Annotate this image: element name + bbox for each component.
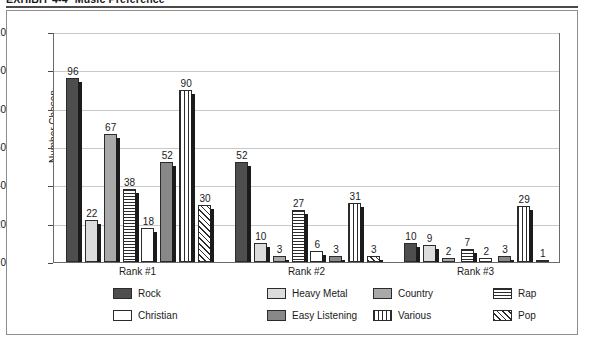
bar-value-label: 2	[446, 247, 452, 257]
bar-shadow	[172, 166, 176, 262]
bar-value-label: 18	[143, 217, 154, 227]
bar: 52	[160, 162, 173, 262]
bar-value-label: 38	[124, 178, 135, 188]
plot-area: 96226738185290305210327633131092723291	[53, 33, 560, 263]
bar-value-label: 96	[67, 67, 78, 77]
bar: 67	[104, 134, 117, 262]
bar: 52	[235, 162, 248, 262]
bar-value-label: 52	[162, 151, 173, 161]
bar-value-label: 1	[540, 249, 546, 259]
legend-swatch-icon	[113, 288, 132, 299]
bar-value-label: 90	[181, 79, 192, 89]
bar-shadow	[529, 210, 533, 262]
legend-label: Christian	[138, 311, 177, 321]
exhibit-title: EXHIBIT 4-4Music Preference	[6, 0, 165, 5]
bar: 96	[66, 78, 79, 262]
legend-label: Pop	[518, 311, 536, 321]
legend-item[interactable]: Rock	[113, 288, 161, 299]
bar: 1	[536, 260, 549, 262]
bar-shadow	[435, 249, 439, 262]
chart-legend: RockHeavy MetalCountryRapChristianEasy L…	[53, 282, 560, 328]
legend-item[interactable]: Heavy Metal	[267, 288, 348, 299]
bar: 9	[423, 245, 436, 262]
y-axis-tick-mark	[48, 186, 53, 187]
bar-value-label: 3	[333, 245, 339, 255]
bar-shadow	[153, 232, 157, 263]
plot-wrapper: Number Chosen 96226738185290305210327633…	[53, 33, 560, 263]
legend-swatch-icon	[493, 310, 512, 321]
y-axis-tick-mark	[48, 148, 53, 149]
bar-shadow	[116, 138, 120, 262]
bar: 2	[479, 258, 492, 262]
bar-shadow	[510, 260, 514, 262]
y-axis-tick-label: 120	[0, 27, 6, 38]
bar-value-label: 7	[465, 238, 471, 248]
y-axis-tick-mark	[48, 263, 53, 264]
bar-shadow	[135, 193, 139, 262]
bar-value-label: 29	[519, 195, 530, 205]
bar-value-label: 10	[405, 232, 416, 242]
gridline	[54, 110, 559, 111]
legend-swatch-icon	[267, 288, 286, 299]
bar: 3	[498, 256, 511, 262]
legend-label: Country	[398, 289, 433, 299]
bar-value-label: 3	[371, 245, 377, 255]
legend-item[interactable]: Easy Listening	[267, 310, 357, 321]
gridline	[54, 71, 559, 72]
bar: 6	[310, 251, 323, 263]
legend-label: Heavy Metal	[292, 289, 348, 299]
bar-shadow	[416, 247, 420, 262]
bar-value-label: 2	[483, 247, 489, 257]
bar-value-label: 3	[277, 245, 283, 255]
bar: 27	[292, 210, 305, 262]
y-axis-tick-mark	[48, 110, 53, 111]
bar: 22	[85, 220, 98, 262]
bar: 31	[348, 203, 361, 262]
bar-shadow	[210, 209, 214, 263]
x-axis-group-label: Rank #2	[288, 266, 325, 277]
y-axis-tick-label: 40	[0, 180, 6, 191]
y-axis-tick-mark	[48, 33, 53, 34]
bar: 29	[517, 206, 530, 262]
bar-value-label: 52	[236, 151, 247, 161]
bar-value-label: 3	[502, 245, 508, 255]
bar-shadow	[78, 82, 82, 262]
legend-label: Rock	[138, 289, 161, 299]
bar-shadow	[360, 207, 364, 262]
x-axis-group-label: Rank #3	[457, 266, 494, 277]
y-axis-tick-label: 80	[0, 104, 6, 115]
y-axis-tick-label: 60	[0, 142, 6, 153]
y-axis-tick-label: 0	[0, 257, 6, 268]
exhibit-page: EXHIBIT 4-4Music Preference Number Chose…	[0, 0, 591, 341]
title-divider	[6, 6, 578, 8]
y-axis-tick-label: 100	[0, 65, 6, 76]
legend-item[interactable]: Country	[373, 288, 433, 299]
bar-shadow	[304, 214, 308, 262]
bar: 3	[273, 256, 286, 262]
bar-value-label: 30	[199, 194, 210, 204]
bar-value-label: 10	[255, 232, 266, 242]
exhibit-number: EXHIBIT 4-4	[6, 0, 68, 5]
legend-item[interactable]: Various	[373, 310, 431, 321]
legend-swatch-icon	[373, 310, 392, 321]
bar: 3	[329, 256, 342, 262]
bar-value-label: 31	[350, 192, 361, 202]
bar: 3	[367, 256, 380, 262]
legend-item[interactable]: Pop	[493, 310, 536, 321]
bar-value-label: 22	[86, 209, 97, 219]
legend-item[interactable]: Rap	[493, 288, 536, 299]
bar: 18	[141, 228, 154, 263]
x-axis-group-label: Rank #1	[119, 266, 156, 277]
legend-label: Various	[398, 311, 431, 321]
bar-shadow	[191, 94, 195, 263]
chart-frame: Number Chosen 96226738185290305210327633…	[6, 10, 578, 335]
bar-value-label: 6	[314, 240, 320, 250]
bar: 2	[442, 258, 455, 262]
y-axis-tick-mark	[48, 71, 53, 72]
y-axis-tick-label: 20	[0, 219, 6, 230]
legend-item[interactable]: Christian	[113, 310, 177, 321]
bar: 90	[179, 90, 192, 263]
legend-swatch-icon	[373, 288, 392, 299]
bar-shadow	[341, 260, 345, 262]
legend-swatch-icon	[493, 288, 512, 299]
